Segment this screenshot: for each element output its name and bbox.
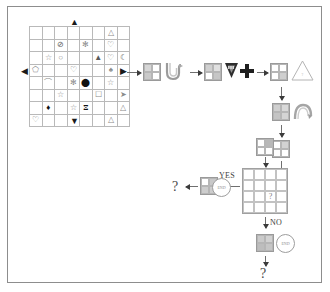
matrix-cell — [30, 102, 43, 115]
matrix-cell — [30, 39, 43, 52]
outlined-triangle-icon: ? — [291, 60, 314, 82]
cell — [152, 72, 160, 80]
matrix-cell: △ — [105, 114, 118, 127]
cell — [265, 180, 276, 191]
matrix-cell: ♦ — [42, 102, 55, 115]
matrix-cell — [42, 39, 55, 52]
cell — [281, 104, 289, 112]
matrix-row: ⊘✻♡ — [30, 39, 130, 52]
matrix-cell — [67, 39, 80, 52]
matrix-cell — [92, 27, 105, 40]
matrix-cell: ⊘ — [55, 39, 68, 52]
cell — [276, 180, 287, 191]
cell — [276, 169, 287, 180]
grid-2x2-step1 — [143, 63, 161, 81]
cell — [254, 180, 265, 191]
cell — [205, 72, 213, 80]
triangle-inner-label: ? — [302, 72, 304, 77]
matrix-cell — [80, 64, 93, 77]
matrix-cell: ☆ — [55, 89, 68, 102]
matrix-cell: ♠ — [105, 64, 118, 77]
cell — [257, 235, 265, 243]
matrix-row: ⌒✻⬤☆ — [30, 77, 130, 90]
cell — [213, 72, 221, 80]
cell — [265, 243, 273, 251]
yes-badge-text: END — [217, 185, 225, 190]
wave-hook-glyph-icon — [164, 61, 184, 83]
cell — [152, 64, 160, 72]
matrix-cell: ♡ — [105, 39, 118, 52]
matrix-cell — [117, 27, 130, 40]
decision-grid-4x4: ? — [242, 168, 288, 214]
matrix-cell — [30, 27, 43, 40]
matrix-row: ☆○▲♡☾ — [30, 52, 130, 65]
matrix-row: △ — [30, 27, 130, 40]
matrix-cell: ⌒ — [42, 77, 55, 90]
cell — [257, 147, 265, 155]
matrix-axis-up-arrow: ▲ — [70, 18, 79, 27]
matrix-cell — [117, 114, 130, 127]
arrow-step6-to-decision — [265, 157, 266, 167]
cell — [265, 202, 276, 213]
cell — [254, 191, 265, 202]
cell — [265, 147, 273, 155]
arrow-matrix-to-step1 — [127, 72, 141, 73]
matrix-cell — [55, 114, 68, 127]
matrix-cell — [92, 114, 105, 127]
matrix-row: ♡△ — [30, 114, 130, 127]
no-label: NO — [270, 218, 282, 227]
matrix-cell — [67, 52, 80, 65]
matrix-cell: ♡ — [67, 64, 80, 77]
cell — [243, 169, 254, 180]
arrow-step3-to-step4 — [281, 87, 282, 100]
matrix-cell — [105, 89, 118, 102]
arc-swirl-glyph-icon — [293, 102, 314, 122]
matrix-cell — [92, 64, 105, 77]
matrix-cell: ⧖ — [80, 102, 93, 115]
matrix-cell — [80, 27, 93, 40]
matrix-cell: ▲ — [92, 52, 105, 65]
grid-2x2-step5 — [272, 140, 290, 158]
matrix-cell — [55, 77, 68, 90]
cell — [144, 64, 152, 72]
matrix-cell: ☐ — [92, 89, 105, 102]
cell — [273, 104, 281, 112]
cell — [271, 64, 279, 72]
cell — [144, 72, 152, 80]
cell — [213, 64, 221, 72]
cell — [243, 191, 254, 202]
grid-2x2-step4 — [272, 103, 290, 121]
cell — [243, 202, 254, 213]
matrix-cell: ☆ — [42, 52, 55, 65]
matrix-axis-left-arrow: ◀ — [21, 67, 28, 76]
cell — [281, 112, 289, 120]
yes-end-badge: END — [212, 178, 231, 197]
grid-2x2-step6 — [256, 138, 274, 156]
matrix-cell: ✻ — [80, 39, 93, 52]
matrix-cell — [67, 27, 80, 40]
no-result-question: ? — [260, 266, 266, 282]
matrix-cell: ⬤ — [80, 77, 93, 90]
cell — [276, 191, 287, 202]
matrix-cell — [105, 102, 118, 115]
cell — [279, 72, 287, 80]
matrix-cell — [80, 52, 93, 65]
cell — [273, 141, 281, 149]
symbol-matrix: △⊘✻♡☆○▲♡☾⬠♡♠⌒✻⬤☆☆☐➤♦☆⧖△♡△ — [29, 26, 121, 118]
matrix-cell: ☆ — [67, 102, 80, 115]
cell — [205, 64, 213, 72]
cell — [265, 139, 273, 147]
arrow-decision-no — [265, 217, 266, 228]
matrix-cell — [92, 77, 105, 90]
matrix-cell — [42, 64, 55, 77]
matrix-cell — [92, 102, 105, 115]
matrix-cell — [67, 89, 80, 102]
cell — [281, 141, 289, 149]
no-end-badge: END — [276, 234, 295, 253]
matrix-cell: △ — [117, 102, 130, 115]
arrow-no-to-result — [265, 256, 266, 266]
decision-question-cell: ? — [265, 191, 276, 202]
matrix-axis-down-arrow: ▼ — [70, 117, 79, 126]
arrow-yes-to-result — [186, 186, 198, 187]
filled-down-triangle-icon — [224, 62, 239, 79]
